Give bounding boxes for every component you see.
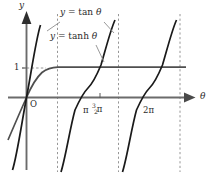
annotation-tanh-theta: θ <box>92 31 97 41</box>
annotation-tan-label: y = tan θ <box>60 8 101 17</box>
annotation-leaders-tanh <box>96 45 104 62</box>
theta-axis-label: θ <box>200 92 205 101</box>
figure-tan-tanh-plot: y = tan θ y = tanh θ y θ O 1 π 32π 2π <box>0 0 215 178</box>
curve-tan-branch-3 <box>123 20 177 172</box>
x-tick-label-pi: π <box>83 106 89 115</box>
theta-axis-arrowhead <box>184 93 196 103</box>
leader-tan-left <box>47 22 60 31</box>
y-axis-arrowhead <box>22 11 32 24</box>
annotation-tan-eq: = tan <box>65 7 96 17</box>
x-tick-label-two-pi: 2π <box>143 106 154 115</box>
plot-canvas <box>0 0 215 178</box>
annotation-tanh-eq: = tanh <box>55 31 92 41</box>
fraction-denominator: 2 <box>94 109 98 115</box>
leader-tanh <box>96 45 104 62</box>
x-tick-label-three-halves-pi: 32π <box>93 103 102 114</box>
y-tick-label-one: 1 <box>14 63 19 72</box>
y-axis-label: y <box>19 1 24 10</box>
annotation-tanh-label: y = tanh θ <box>50 32 97 41</box>
origin-label: O <box>30 100 37 109</box>
annotation-tan-theta: θ <box>96 7 101 17</box>
curve-tan-branch-2 <box>61 20 115 172</box>
